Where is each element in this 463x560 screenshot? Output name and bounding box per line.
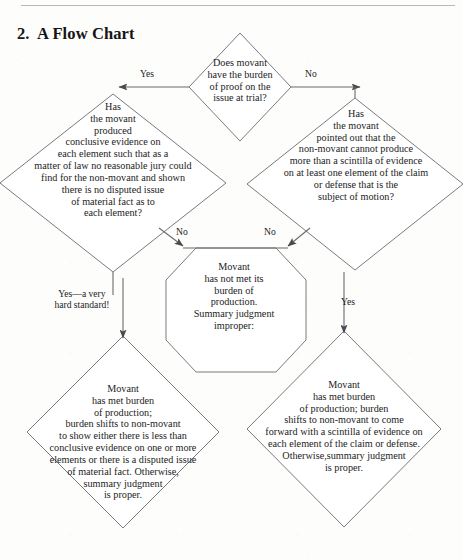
edge-no-right-to-not-met xyxy=(288,228,310,246)
edge-label-yes-right: Yes xyxy=(341,297,355,308)
edge-label-no-right: No xyxy=(264,227,276,238)
node-text-r-met-left: Movant has met burden of production; bur… xyxy=(20,383,226,501)
node-text-q-burden-of-proof: Does movant have the burden of proof on … xyxy=(186,57,294,104)
node-text-r-met-right: Movant has met burden of production; bur… xyxy=(240,379,448,474)
node-text-r-not-met: Movant has not met its burden of product… xyxy=(178,261,290,332)
edge-label-yes-hard-standard: Yes—a very hard standard! xyxy=(42,289,122,311)
node-text-q-conclusive-evidence: Has the movant produced conclusive evide… xyxy=(4,101,222,219)
edge-label-yes-top: Yes xyxy=(140,69,154,80)
node-text-q-scintilla: Has the movant pointed out that the non-… xyxy=(252,108,460,203)
edge-label-no-top: No xyxy=(305,69,317,80)
document-page: 2. A Flow Chart Does xyxy=(0,0,463,560)
edge-label-no-left: No xyxy=(176,227,188,238)
